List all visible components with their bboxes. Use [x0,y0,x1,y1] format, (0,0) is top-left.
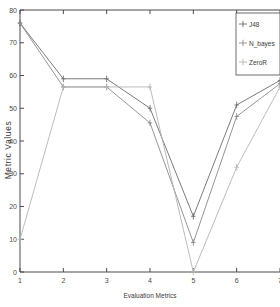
data-point [191,269,195,275]
y-tick-label: 0 [13,269,17,276]
chart-legend[interactable]: J48N_bayesZeroR [236,13,280,75]
data-point [18,236,22,242]
y-tick-label: 60 [9,72,17,79]
series-line-2 [20,87,280,272]
data-point [148,105,152,111]
x-tick-label: 2 [61,277,65,284]
x-tick-label: 4 [148,277,152,284]
legend-item-zeror[interactable]: ZeroR [239,59,267,66]
y-axis-title: Metric Values [3,121,13,180]
data-point [148,120,152,126]
legend-label: N_bayes [249,40,275,48]
data-point [104,84,108,90]
x-tick-label: 5 [191,277,195,284]
x-axis-title: Evaluation Metrics [123,292,177,299]
x-axis-ticks: 1234567 [18,268,280,284]
x-tick-label: 6 [235,277,239,284]
x-tick-label: 7 [278,277,280,284]
x-tick-label: 1 [18,277,22,284]
data-point [148,84,152,90]
x-tick-label: 3 [105,277,109,284]
data-point [234,102,238,108]
y-tick-label: 10 [9,236,17,243]
data-point [104,76,108,82]
legend-label: J48 [249,21,260,28]
y-tick-label: 50 [9,105,17,112]
legend-label: ZeroR [249,59,267,66]
data-point [191,213,195,219]
y-tick-label: 20 [9,203,17,210]
chart-canvas: 01020304050607080 1234567 J48N_bayesZero… [0,0,280,307]
y-tick-label: 70 [9,39,17,46]
y-tick-label: 80 [9,7,17,14]
data-point [234,113,238,119]
line-chart: 01020304050607080 1234567 J48N_bayesZero… [0,0,280,307]
data-point [191,239,195,245]
